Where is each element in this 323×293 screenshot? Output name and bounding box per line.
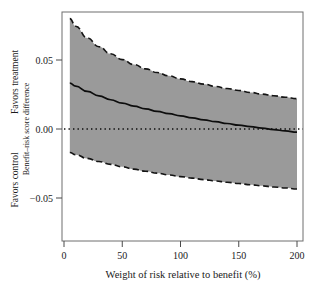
y-axis-title: Benefit–risk score difference [22,82,31,175]
x-tick-label: 100 [173,250,188,261]
x-tick-label: 200 [290,250,305,261]
favors-control-label: Favors control [10,152,20,208]
x-tick-label: 0 [62,250,67,261]
benefit-risk-chart: 050100150200 0.050.00−0.05 Weight of ris… [0,0,323,293]
y-tick-label: 0.00 [36,124,54,135]
y-tick-label: 0.05 [36,55,54,66]
favors-treatment-label: Favors treatment [10,50,20,114]
x-tick-label: 150 [231,250,246,261]
y-tick-label: −0.05 [30,193,53,204]
x-axis-title: Weight of risk relative to benefit (%) [106,269,261,281]
x-tick-label: 50 [117,250,127,261]
